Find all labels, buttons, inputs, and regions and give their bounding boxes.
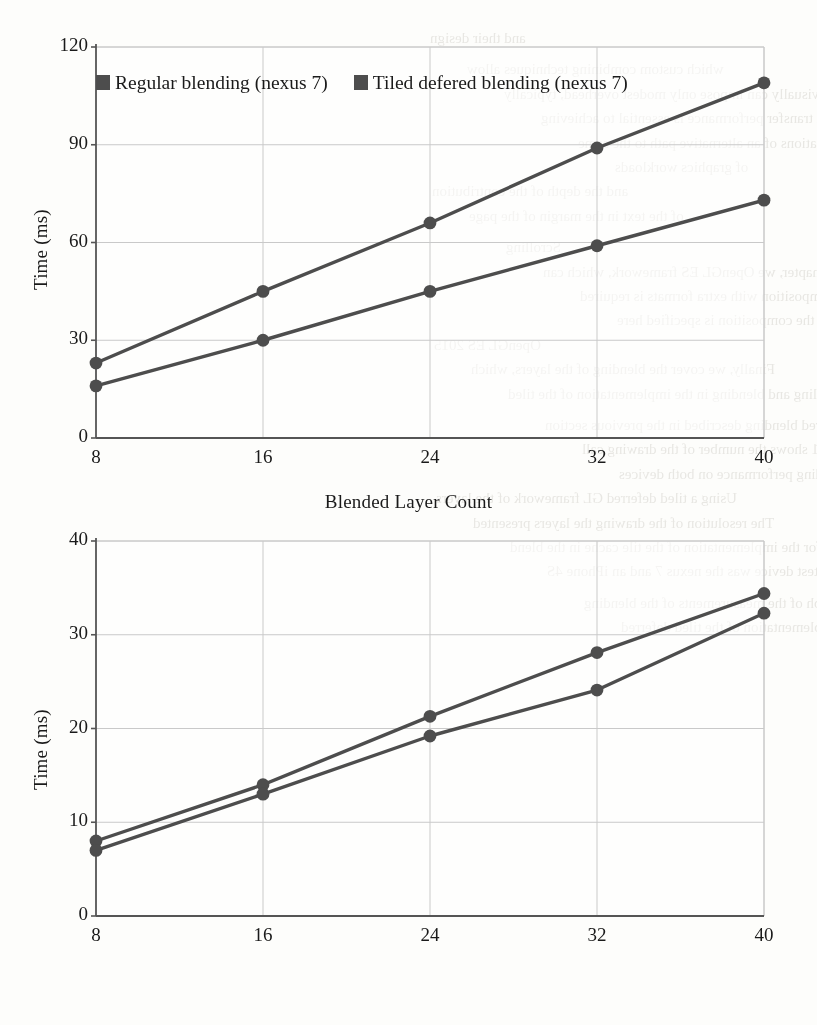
x-axis-tick-label: 40 — [755, 446, 774, 468]
x-axis-tick-label: 16 — [254, 446, 273, 468]
data-point — [257, 788, 270, 801]
y-axis-tick-label: 0 — [34, 425, 88, 447]
x-axis-tick-label: 40 — [755, 924, 774, 946]
x-axis-tick-label: 8 — [91, 446, 101, 468]
data-point — [758, 76, 771, 89]
data-point — [424, 217, 437, 230]
y-axis-tick-label: 120 — [34, 34, 88, 56]
data-point — [591, 646, 604, 659]
data-point — [424, 730, 437, 743]
legend-item-tiled-deferred-blending: Tiled defered blending (nexus 7) — [354, 73, 628, 93]
data-point — [591, 239, 604, 252]
y-axis-tick-label: 10 — [34, 809, 88, 831]
y-axis-tick-label: 30 — [34, 327, 88, 349]
y-axis-tick-label: 30 — [34, 622, 88, 644]
y-axis-title: Time (ms) — [30, 709, 52, 790]
legend-label: Regular blending (nexus 7) — [115, 73, 328, 93]
x-axis-tick-label: 8 — [91, 924, 101, 946]
y-axis-tick-label: 0 — [34, 903, 88, 925]
data-point — [257, 285, 270, 298]
chart-legend-nexus7: Regular blending (nexus 7) Tiled defered… — [96, 73, 628, 93]
legend-swatch-icon — [96, 75, 110, 90]
x-axis-tick-label: 32 — [588, 446, 607, 468]
y-axis-tick-label: 90 — [34, 132, 88, 154]
legend-label: Tiled defered blending (nexus 7) — [373, 73, 628, 93]
data-point — [758, 194, 771, 207]
data-point — [90, 844, 103, 857]
chart-figure-iphone4s: Regular blending (iPhone 4S) Tiled defer… — [0, 508, 817, 1008]
y-axis-tick-label: 40 — [34, 528, 88, 550]
data-point — [591, 684, 604, 697]
data-point — [257, 334, 270, 347]
data-point — [758, 587, 771, 600]
data-point — [424, 710, 437, 723]
data-point — [424, 285, 437, 298]
x-axis-tick-label: 16 — [254, 924, 273, 946]
legend-swatch-icon — [354, 75, 368, 90]
data-point — [758, 607, 771, 620]
data-point — [90, 357, 103, 370]
legend-item-regular-blending: Regular blending (nexus 7) — [96, 73, 328, 93]
x-axis-tick-label: 24 — [421, 924, 440, 946]
data-point — [90, 379, 103, 392]
y-axis-title: Time (ms) — [30, 209, 52, 290]
chart-figure-nexus7: Regular blending (nexus 7) Tiled defered… — [0, 18, 817, 500]
line-chart-iphone4s — [0, 508, 817, 1008]
x-axis-tick-label: 24 — [421, 446, 440, 468]
data-point — [591, 142, 604, 155]
x-axis-tick-label: 32 — [588, 924, 607, 946]
